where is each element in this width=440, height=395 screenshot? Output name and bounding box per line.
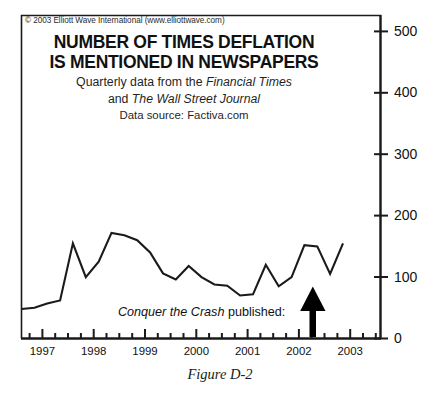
x-axis-major-ticks [42, 329, 350, 338]
chart-subtitle-line-2: and The Wall Street Journal [24, 92, 344, 107]
y-tick-label-400: 400 [394, 84, 417, 100]
x-tick-label-2000: 2000 [173, 345, 219, 357]
y-tick-label-300: 300 [394, 146, 417, 162]
data-line-series [22, 233, 344, 309]
chart-title-line-2: IS MENTIONED IN NEWSPAPERS [24, 53, 344, 73]
x-tick-label-2001: 2001 [225, 345, 271, 357]
figure-container: © 2003 Elliott Wave International (www.e… [0, 0, 440, 395]
x-tick-label-1999: 1999 [122, 345, 168, 357]
x-axis-minor-ticks [30, 333, 376, 338]
chart-title-line-1: NUMBER OF TIMES DEFLATION [24, 33, 344, 53]
x-tick-label-1998: 1998 [71, 345, 117, 357]
conquer-the-crash-arrow-icon [300, 287, 325, 338]
x-tick-label-2002: 2002 [276, 345, 322, 357]
annotation-book-title: Conquer the Crash [118, 305, 224, 319]
conquer-the-crash-annotation: Conquer the Crash published: [118, 305, 285, 319]
y-tick-label-500: 500 [394, 23, 417, 39]
subtitle-prefix-1: Quarterly data from the [76, 75, 206, 89]
subtitle-source-wsj: The Wall Street Journal [132, 92, 260, 106]
x-tick-label-1997: 1997 [19, 345, 65, 357]
subtitle-prefix-2: and [108, 92, 132, 106]
figure-caption: Figure D-2 [0, 366, 440, 383]
y-tick-label-200: 200 [394, 207, 417, 223]
chart-subtitle-line-1: Quarterly data from the Financial Times [24, 75, 344, 90]
copyright-notice: © 2003 Elliott Wave International (www.e… [25, 16, 225, 25]
chart-title-block: NUMBER OF TIMES DEFLATION IS MENTIONED I… [24, 33, 344, 123]
y-axis [374, 15, 388, 339]
x-tick-label-2003: 2003 [327, 345, 373, 357]
y-tick-label-0: 0 [394, 330, 402, 346]
y-tick-label-100: 100 [394, 269, 417, 285]
x-axis [21, 329, 381, 339]
annotation-published-label: published: [224, 305, 285, 319]
chart-data-source: Data source: Factiva.com [24, 108, 344, 122]
subtitle-source-financial-times: Financial Times [206, 75, 292, 89]
